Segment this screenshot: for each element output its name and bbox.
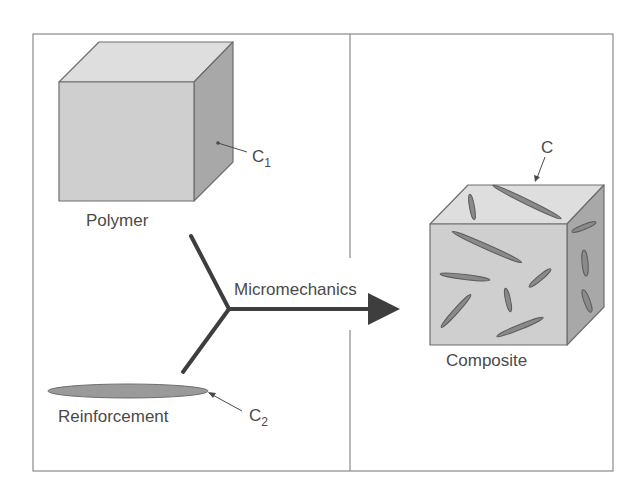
c1-leader-dot <box>216 141 220 145</box>
c-label: C <box>541 138 553 157</box>
polymer-label: Polymer <box>86 211 149 230</box>
micromechanics-diagram: C1 Polymer C2 Reinforcement Micromechani… <box>0 0 643 491</box>
c-leader-line <box>537 157 545 178</box>
c2-label: C2 <box>249 406 268 429</box>
composite-label: Composite <box>446 351 527 370</box>
polymer-cube <box>59 42 233 201</box>
composite-cube <box>430 183 604 345</box>
reinforcement-fiber <box>48 384 208 398</box>
c2-leader-arrow <box>208 392 216 398</box>
c1-label: C1 <box>252 147 271 170</box>
micromechanics-label: Micromechanics <box>234 280 357 299</box>
c-leader-arrow <box>534 175 540 182</box>
micromechanics-arrow <box>183 236 392 372</box>
reinforcement-label: Reinforcement <box>58 407 169 426</box>
